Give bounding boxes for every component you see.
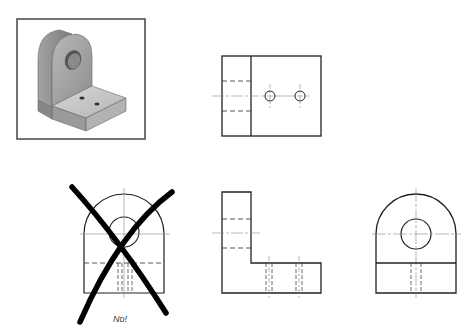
- isometric-view: [17, 19, 145, 139]
- incorrect-label: No!: [113, 314, 127, 324]
- base-hole-1: [79, 96, 84, 99]
- top-view: [212, 56, 321, 136]
- front-view: [212, 192, 321, 300]
- incorrect-view: [72, 187, 172, 322]
- base-hole-2: [94, 102, 99, 105]
- right-side-view: [372, 188, 461, 298]
- projection-drawing: [0, 0, 474, 328]
